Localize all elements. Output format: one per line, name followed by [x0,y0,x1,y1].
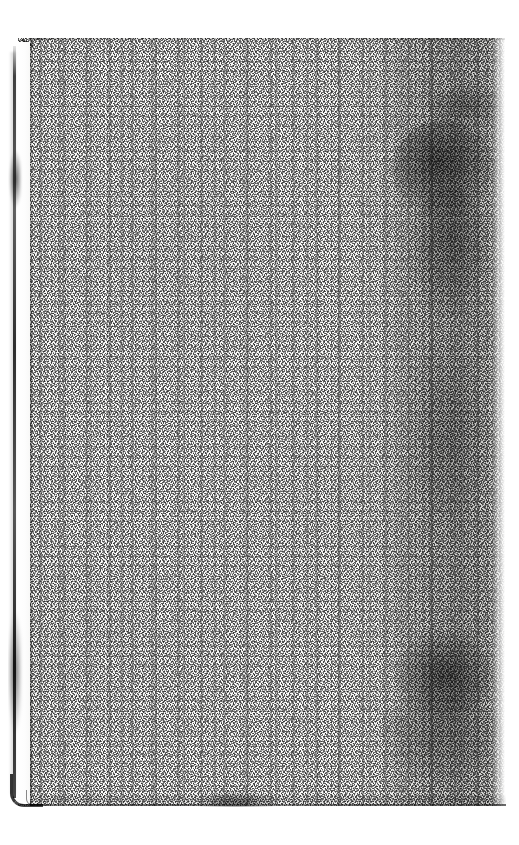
page-edge-top [30,38,505,40]
right-edge-fade [491,38,505,806]
board-inner-edge-line [30,40,32,806]
scan-margin-bottom [0,807,519,845]
gutter-smudge-upper [9,150,21,208]
scan-margin-top [0,0,519,37]
scan-margin-left [0,0,8,845]
scan-margin-right [506,0,519,845]
paper-background [18,38,505,806]
scanned-leaf [18,38,505,806]
gutter-smudge-lower [8,612,21,732]
page-edge-bottom-smudge [196,791,276,807]
board-rounded-corner-inner [26,790,41,805]
scanned-page-viewer [0,0,519,845]
